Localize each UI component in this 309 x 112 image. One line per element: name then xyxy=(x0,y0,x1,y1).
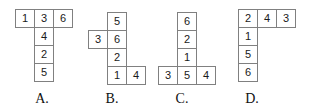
cell-d-6: 6 xyxy=(238,63,258,82)
cell-d-1: 1 xyxy=(238,27,258,46)
option-label-c: C. xyxy=(167,91,197,107)
option-label-a: A. xyxy=(27,91,57,107)
cell-c-3: 3 xyxy=(158,66,178,85)
cell-b-5: 5 xyxy=(107,12,127,31)
cell-c-4: 4 xyxy=(196,66,216,85)
cell-b-1: 1 xyxy=(107,66,127,85)
cell-a-3: 3 xyxy=(34,9,54,28)
cell-c-1: 1 xyxy=(177,48,197,67)
cell-d-3: 3 xyxy=(276,9,296,28)
cell-a-4: 4 xyxy=(34,27,54,46)
cell-b-2: 2 xyxy=(107,48,127,67)
cell-b-6: 6 xyxy=(107,30,127,49)
cell-a-1: 1 xyxy=(15,9,35,28)
cell-c-6: 6 xyxy=(177,12,197,31)
cell-d-2: 2 xyxy=(238,9,258,28)
option-label-d: D. xyxy=(237,91,267,107)
cell-b-4: 4 xyxy=(126,66,146,85)
option-label-b: B. xyxy=(97,91,127,107)
cell-a-5: 5 xyxy=(34,63,54,82)
cell-d-4: 4 xyxy=(257,9,277,28)
cell-c-5: 5 xyxy=(177,66,197,85)
cell-b-3: 3 xyxy=(88,30,108,49)
cell-c-2: 2 xyxy=(177,30,197,49)
cell-a-2: 2 xyxy=(34,45,54,64)
answer-options-figure: 136425A.536214B.621354C.243156D. xyxy=(0,0,309,112)
cell-d-5: 5 xyxy=(238,45,258,64)
cell-a-6: 6 xyxy=(53,9,73,28)
